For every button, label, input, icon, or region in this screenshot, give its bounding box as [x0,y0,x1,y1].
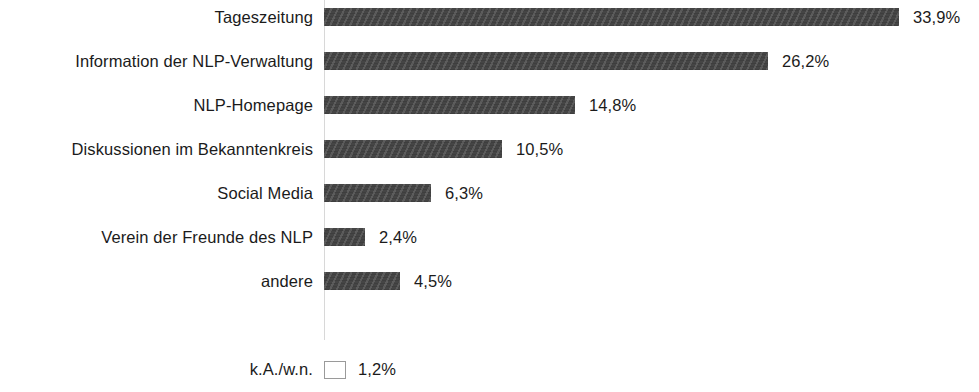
bar [324,52,768,70]
category-label: Information der NLP-Verwaltung [0,45,313,77]
category-label: k.A./w.n. [0,353,313,385]
bar-row: Diskussionen im Bekanntenkreis10,5% [0,133,979,165]
horizontal-bar-chart: Tageszeitung33,9%Information der NLP-Ver… [0,0,979,392]
bar-row: NLP-Homepage14,8% [0,89,979,121]
bar [324,8,899,26]
value-label: 2,4% [379,221,417,253]
bar [324,361,346,379]
bar-row: andere4,5% [0,265,979,297]
bar [324,228,365,246]
category-label: Diskussionen im Bekanntenkreis [0,133,313,165]
value-label: 10,5% [516,133,563,165]
bar [324,140,502,158]
bar-row: Verein der Freunde des NLP2,4% [0,221,979,253]
value-label: 26,2% [782,45,829,77]
category-label: NLP-Homepage [0,89,313,121]
bar [324,184,431,202]
bar [324,272,400,290]
bar-row: Social Media6,3% [0,177,979,209]
bar-row: k.A./w.n.1,2% [0,353,979,385]
value-label: 14,8% [589,89,636,121]
bar-row: Tageszeitung33,9% [0,1,979,33]
value-label: 6,3% [445,177,483,209]
value-label: 4,5% [414,265,452,297]
category-label: andere [0,265,313,297]
category-label: Verein der Freunde des NLP [0,221,313,253]
category-label: Social Media [0,177,313,209]
value-label: 1,2% [358,353,396,385]
category-label: Tageszeitung [0,1,313,33]
bar [324,96,575,114]
value-label: 33,9% [913,1,960,33]
bar-row: Information der NLP-Verwaltung26,2% [0,45,979,77]
